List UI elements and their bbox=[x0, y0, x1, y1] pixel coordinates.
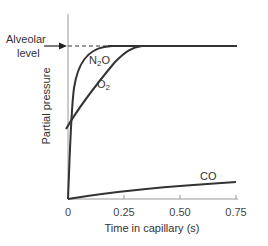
alveolar-label-line1: Alveolar bbox=[6, 34, 46, 45]
o2-label-main: O bbox=[97, 78, 106, 90]
o2-label-sub: 2 bbox=[106, 83, 110, 92]
x-axis-label: Time in capillary (s) bbox=[105, 222, 200, 234]
arrowhead-icon bbox=[59, 43, 67, 50]
co-label: CO bbox=[200, 171, 217, 182]
n2o-label: N2O bbox=[89, 55, 110, 66]
n2o-label-main: N bbox=[89, 54, 97, 66]
x-tick-label-2: 0.50 bbox=[169, 206, 190, 218]
y-axis-label: Partial pressure bbox=[40, 67, 52, 144]
x-tick-label-3: 0.75 bbox=[225, 206, 246, 218]
co-curve bbox=[68, 182, 236, 199]
o2-label: O2 bbox=[97, 79, 110, 90]
x-tick-label-1: 0.25 bbox=[113, 206, 134, 218]
x-ticks bbox=[124, 195, 236, 199]
n2o-label-tail: O bbox=[101, 54, 110, 66]
n2o-curve bbox=[68, 46, 112, 199]
alveolar-label-line2: level bbox=[17, 48, 40, 59]
x-tick-label-0: 0 bbox=[65, 206, 71, 218]
